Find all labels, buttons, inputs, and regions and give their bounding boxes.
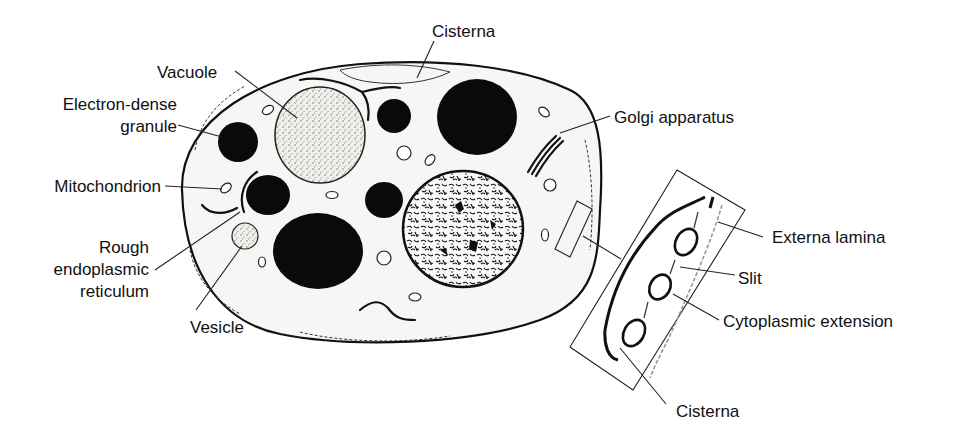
cell-diagram: Cisterna Vacuole Electron-dense granule … bbox=[0, 0, 955, 438]
label-externa-lamina: Externa lamina bbox=[772, 228, 886, 247]
label-cisterna-top: Cisterna bbox=[432, 22, 496, 41]
label-rough-er-line2: endoplasmic bbox=[54, 260, 150, 279]
label-vacuole: Vacuole bbox=[157, 63, 217, 82]
label-cytoplasmic-extension: Cytoplasmic extension bbox=[723, 312, 893, 331]
electron-dense-granule bbox=[437, 79, 517, 155]
cell-body bbox=[182, 62, 601, 342]
vacuole bbox=[275, 87, 365, 183]
label-rough-er-line1: Rough bbox=[99, 238, 149, 257]
nucleus bbox=[403, 171, 523, 287]
label-electron-dense-line1: Electron-dense bbox=[63, 95, 177, 114]
electron-dense-granule bbox=[365, 182, 403, 218]
vesicle bbox=[232, 223, 258, 249]
electron-dense-granule bbox=[273, 213, 363, 289]
electron-dense-granule bbox=[377, 99, 411, 133]
label-golgi: Golgi apparatus bbox=[614, 108, 734, 127]
cytoplasmic-extension bbox=[670, 225, 701, 259]
label-cisterna-bottom: Cisterna bbox=[676, 402, 740, 421]
electron-dense-granule bbox=[218, 122, 258, 162]
electron-dense-granule bbox=[246, 175, 290, 215]
label-vesicle: Vesicle bbox=[190, 318, 244, 337]
label-rough-er-line3: reticulum bbox=[80, 282, 149, 301]
label-slit: Slit bbox=[738, 269, 762, 288]
label-electron-dense-line2: granule bbox=[120, 117, 177, 136]
label-mitochondrion: Mitochondrion bbox=[54, 177, 161, 196]
